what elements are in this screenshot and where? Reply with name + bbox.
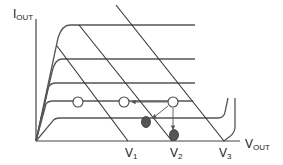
filled-operating-point-2 (170, 130, 179, 141)
v2-label: V2 (170, 147, 182, 161)
y-axis-label-sub: OUT (16, 13, 33, 22)
v2-label-sub: 2 (178, 152, 182, 161)
v3-label: V3 (219, 147, 231, 161)
v1-label-sub: 1 (133, 152, 137, 161)
x-axis-label: VOUT (245, 138, 270, 152)
open-operating-point-2 (119, 97, 129, 107)
filled-operating-point-1 (142, 117, 151, 128)
iv-characteristics-diagram: IOUT VOUT V1 V2 V3 (0, 0, 283, 165)
open-operating-point-1 (73, 97, 83, 107)
load-line-v1 (57, 46, 128, 141)
x-axis-label-main: V (245, 137, 253, 151)
y-axis-label: IOUT (13, 8, 33, 22)
x-axis-label-sub: OUT (253, 143, 270, 152)
v2-label-main: V (170, 146, 178, 160)
v3-label-sub: 3 (227, 152, 231, 161)
open-operating-point-3 (168, 97, 178, 107)
v1-label: V1 (125, 147, 137, 161)
breakdown-curve (224, 98, 235, 141)
v1-label-main: V (125, 146, 133, 160)
arrow-diagonal (153, 106, 168, 118)
characteristic-curve-5 (36, 98, 228, 141)
diagram-canvas (0, 0, 283, 165)
v3-label-main: V (219, 146, 227, 160)
